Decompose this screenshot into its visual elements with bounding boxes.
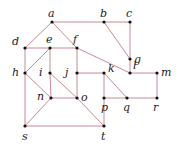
node-label-b: b (100, 7, 107, 20)
node-label-s: s (22, 130, 28, 143)
labels-layer: abcdefghijklmnopqrst (12, 7, 171, 143)
node-label-q: q (123, 101, 130, 114)
node-h (23, 71, 26, 74)
node-label-k: k (108, 62, 115, 75)
node-label-c: c (126, 7, 132, 20)
node-r (155, 96, 158, 99)
node-l (128, 71, 131, 74)
edge-e-h (25, 48, 50, 73)
node-c (128, 20, 131, 23)
node-label-d: d (12, 35, 19, 48)
node-label-h: h (12, 66, 19, 79)
node-label-i: i (39, 66, 43, 79)
node-o (75, 96, 78, 99)
node-m (155, 71, 158, 74)
node-j (75, 71, 78, 74)
edges-layer (25, 22, 157, 126)
node-p (102, 96, 105, 99)
node-a (50, 20, 53, 23)
node-g (128, 57, 131, 60)
node-k (102, 71, 105, 74)
node-f (75, 46, 78, 49)
node-label-p: p (101, 101, 108, 114)
node-label-r: r (153, 101, 159, 114)
node-b (102, 20, 105, 23)
node-label-o: o (81, 91, 88, 104)
node-i (48, 71, 51, 74)
edge-b-g (104, 22, 130, 59)
graph-diagram: abcdefghijklmnopqrst (0, 0, 181, 144)
nodes-layer (23, 20, 158, 127)
node-label-m: m (161, 66, 171, 79)
node-label-t: t (101, 130, 106, 143)
node-d (23, 46, 26, 49)
node-s (23, 124, 26, 127)
node-label-e: e (46, 33, 53, 46)
node-label-l: l (133, 59, 137, 72)
node-label-j: j (62, 66, 69, 79)
node-e (48, 46, 51, 49)
node-label-a: a (48, 7, 55, 20)
edge-i-n (50, 73, 51, 98)
node-label-f: f (72, 33, 79, 46)
edge-i-o (50, 73, 77, 98)
edge-k-q (104, 73, 127, 98)
edge-f-l (77, 48, 130, 73)
node-n (49, 96, 52, 99)
node-label-n: n (37, 90, 44, 103)
node-t (102, 124, 105, 127)
node-q (125, 96, 128, 99)
